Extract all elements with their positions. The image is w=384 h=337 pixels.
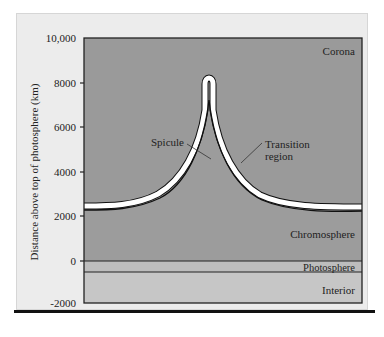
tick-2000: 2000 bbox=[54, 210, 77, 222]
tick-6000: 6000 bbox=[54, 121, 77, 133]
tick-0: 0 bbox=[71, 255, 77, 267]
tick-minus-2000: -2000 bbox=[50, 297, 76, 309]
atmosphere-diagram: 10,000 8000 6000 4000 2000 0 -2000 Dista… bbox=[0, 0, 384, 337]
corona-label: Corona bbox=[323, 45, 356, 57]
transition-label-line2: region bbox=[265, 150, 294, 162]
tick-8000: 8000 bbox=[54, 77, 77, 89]
y-axis-label: Distance above top of photosphere (km) bbox=[28, 83, 41, 260]
interior-label: Interior bbox=[322, 284, 355, 296]
chromosphere-label: Chromosphere bbox=[290, 228, 355, 240]
spicule-label: Spicule bbox=[151, 136, 184, 148]
photosphere-label: Photosphere bbox=[303, 262, 355, 273]
interior-region bbox=[84, 272, 362, 303]
y-axis-tick-labels: 10,000 8000 6000 4000 2000 0 -2000 bbox=[46, 32, 77, 309]
tick-10000: 10,000 bbox=[46, 32, 77, 44]
transition-label-line1: Transition bbox=[265, 138, 310, 150]
tick-4000: 4000 bbox=[54, 166, 77, 178]
